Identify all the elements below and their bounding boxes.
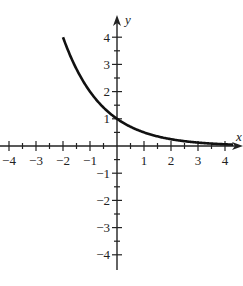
y-tick-label: −3 (96, 220, 110, 235)
x-tick-label: −3 (29, 153, 43, 168)
y-tick-label: −2 (96, 193, 110, 208)
x-tick-label: 1 (141, 153, 148, 168)
exponential-decay-plot: −4−3−2−112344321−1−2−3−4 x y (0, 0, 243, 286)
y-axis-label: y (123, 12, 131, 27)
x-tick-label: 3 (195, 153, 202, 168)
x-tick-label: 2 (168, 153, 175, 168)
y-tick-label: 3 (104, 57, 111, 72)
x-tick-label: −4 (2, 153, 16, 168)
x-axis-label: x (235, 129, 242, 144)
y-tick-label: −4 (96, 247, 110, 262)
x-tick-label: −2 (56, 153, 70, 168)
x-tick-label: −1 (83, 153, 97, 168)
y-tick-label: 2 (104, 84, 111, 99)
y-tick-label: 4 (104, 30, 111, 45)
x-tick-label: 4 (222, 153, 229, 168)
y-tick-label: −1 (96, 166, 110, 181)
curve-line (63, 37, 233, 144)
